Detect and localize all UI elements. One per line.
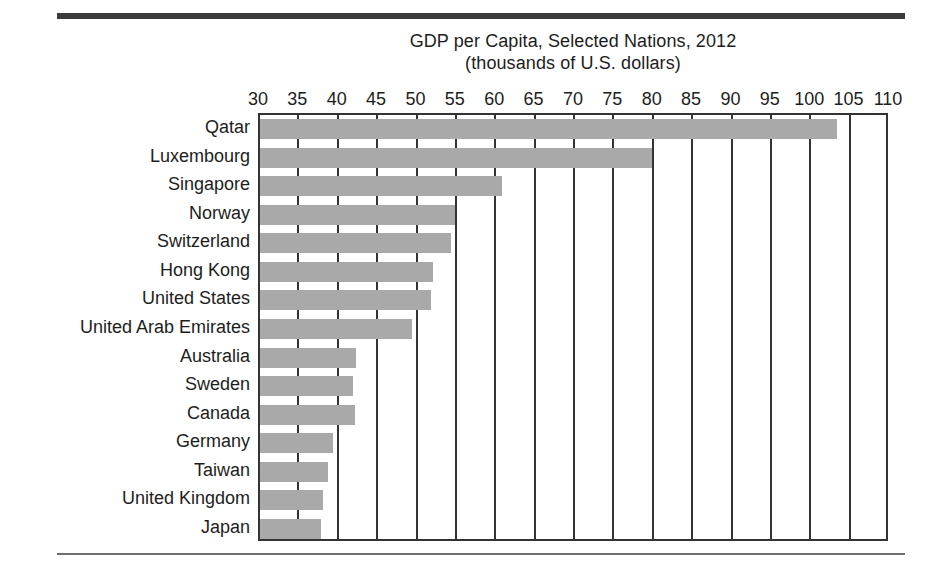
x-tick-label: 40 bbox=[317, 89, 357, 110]
bar bbox=[260, 205, 455, 225]
bar bbox=[260, 405, 355, 425]
bottom-rule bbox=[57, 553, 905, 555]
y-axis-category-labels: QatarLuxembourgSingaporeNorwaySwitzerlan… bbox=[0, 113, 256, 541]
category-label: Luxembourg bbox=[6, 144, 256, 168]
bar bbox=[260, 348, 356, 368]
x-tick-label: 70 bbox=[553, 89, 593, 110]
x-tick-label: 60 bbox=[474, 89, 514, 110]
bars-group bbox=[260, 115, 886, 539]
bar bbox=[260, 119, 837, 139]
x-tick-label: 30 bbox=[238, 89, 278, 110]
category-label: United Kingdom bbox=[6, 486, 256, 510]
x-tick-label: 95 bbox=[750, 89, 790, 110]
bar bbox=[260, 462, 328, 482]
category-label: Sweden bbox=[6, 372, 256, 396]
category-label: Japan bbox=[6, 515, 256, 539]
x-tick-label: 110 bbox=[868, 89, 908, 110]
category-label: Switzerland bbox=[6, 229, 256, 253]
bar bbox=[260, 290, 431, 310]
category-label: Canada bbox=[6, 401, 256, 425]
x-tick-label: 55 bbox=[435, 89, 475, 110]
bar bbox=[260, 233, 451, 253]
x-tick-label: 105 bbox=[829, 89, 869, 110]
category-label: United Arab Emirates bbox=[6, 315, 256, 339]
x-tick-label: 65 bbox=[514, 89, 554, 110]
chart-title: GDP per Capita, Selected Nations, 2012 (… bbox=[258, 30, 888, 74]
x-tick-label: 35 bbox=[277, 89, 317, 110]
x-tick-label: 90 bbox=[711, 89, 751, 110]
category-label: Norway bbox=[6, 201, 256, 225]
bar bbox=[260, 490, 323, 510]
category-label: Singapore bbox=[6, 172, 256, 196]
x-tick-label: 100 bbox=[789, 89, 829, 110]
x-tick-label: 85 bbox=[671, 89, 711, 110]
bar bbox=[260, 519, 321, 539]
bar bbox=[260, 319, 412, 339]
category-label: Australia bbox=[6, 344, 256, 368]
bar bbox=[260, 148, 652, 168]
category-label: Hong Kong bbox=[6, 258, 256, 282]
chart-title-subtitle: (thousands of U.S. dollars) bbox=[258, 52, 888, 74]
x-tick-label: 75 bbox=[592, 89, 632, 110]
bar bbox=[260, 376, 353, 396]
category-label: Germany bbox=[6, 429, 256, 453]
top-rule bbox=[57, 13, 905, 19]
bar bbox=[260, 262, 433, 282]
x-tick-label: 80 bbox=[632, 89, 672, 110]
category-label: United States bbox=[6, 286, 256, 310]
category-label: Taiwan bbox=[6, 458, 256, 482]
x-axis-tick-labels: 3035404550556065707580859095100105110 bbox=[0, 89, 944, 111]
plot-area bbox=[258, 113, 888, 541]
x-tick-label: 45 bbox=[356, 89, 396, 110]
x-tick-label: 50 bbox=[396, 89, 436, 110]
chart-title-line-1: GDP per Capita, Selected Nations, 2012 bbox=[258, 30, 888, 52]
bar bbox=[260, 433, 333, 453]
bar bbox=[260, 176, 502, 196]
category-label: Qatar bbox=[6, 115, 256, 139]
chart-figure: GDP per Capita, Selected Nations, 2012 (… bbox=[0, 0, 944, 568]
